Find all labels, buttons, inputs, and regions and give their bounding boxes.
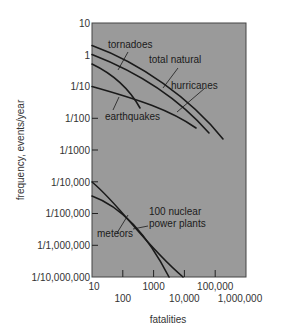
y-axis-title: frequency, events/year: [15, 99, 26, 200]
y-tick-labels: 10 1 1/10 1/100 1/1000 1/10,000 1/100,00…: [32, 18, 91, 283]
annotation-meteors: meteors: [97, 228, 133, 239]
x-tick-labels: 10 100 1000 10,000 100,000 1,000,000: [88, 281, 262, 304]
y-tick-label: 1/10: [71, 81, 91, 92]
y-tick-label: 1/10,000: [51, 177, 90, 188]
x-tick-label: 10,000: [169, 293, 200, 304]
y-tick-label: 1/1,000,000: [37, 240, 90, 251]
annotation-nuclear-line2: power plants: [149, 218, 206, 229]
y-tick-label: 1/100,000: [46, 208, 91, 219]
x-tick-label: 100,000: [197, 281, 234, 292]
x-tick-label: 1000: [142, 281, 165, 292]
annotation-nuclear-line1: 100 nuclear: [149, 206, 202, 217]
x-tick-label: 100: [114, 293, 131, 304]
annotation-hurricanes: hurricanes: [171, 80, 218, 91]
x-tick-label: 1,000,000: [218, 293, 263, 304]
x-axis-title: fatalities: [150, 314, 187, 325]
y-tick-label: 1/100: [65, 113, 90, 124]
y-tick-label: 1/1000: [59, 145, 90, 156]
annotation-total-natural: total natural: [149, 54, 201, 65]
annotation-earthquakes: earthquakes: [105, 111, 160, 122]
annotation-tornadoes: tornadoes: [108, 39, 152, 50]
y-tick-label: 10: [79, 18, 91, 29]
y-tick-label: 1/10,000,000: [32, 272, 91, 283]
y-tick-label: 1: [84, 50, 90, 61]
risk-frequency-chart: 10 1 1/10 1/100 1/1000 1/10,000 1/100,00…: [0, 0, 285, 333]
x-tick-label: 10: [88, 281, 100, 292]
